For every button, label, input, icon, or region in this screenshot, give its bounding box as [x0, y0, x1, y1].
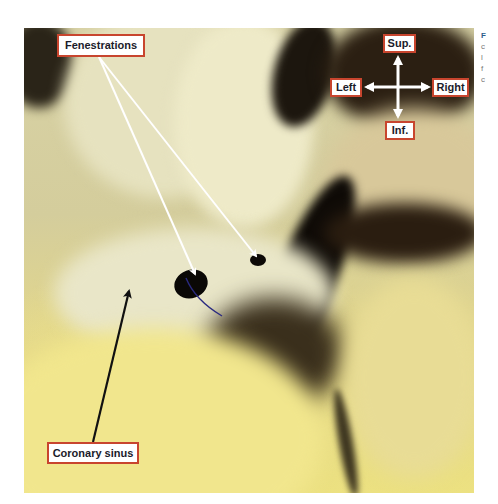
figure-caption-fragment: F c l f c: [481, 30, 486, 85]
suture-thread: [186, 278, 222, 316]
orientation-label-right: Right: [432, 78, 469, 97]
caption-line: c: [481, 74, 486, 85]
coronary-sinus-arrow: [93, 291, 129, 442]
fenestration-arrow-1: [99, 57, 195, 274]
orientation-label-sup: Sup.: [383, 34, 416, 53]
label-coronary-sinus: Coronary sinus: [47, 442, 139, 464]
orientation-label-inf: Inf.: [385, 121, 415, 140]
caption-line: l: [481, 52, 486, 63]
orientation-label-left: Left: [330, 78, 362, 97]
caption-line: c: [481, 41, 486, 52]
annotation-arrows: [0, 0, 498, 504]
label-fenestrations: Fenestrations: [57, 34, 145, 57]
fenestration-arrow-2: [99, 57, 256, 256]
caption-line: F: [481, 30, 486, 41]
caption-line: f: [481, 63, 486, 74]
